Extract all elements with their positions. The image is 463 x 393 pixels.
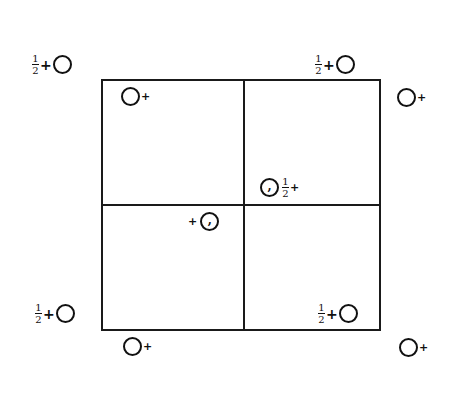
plus-sign: + xyxy=(417,92,426,103)
fraction-numerator: 1 xyxy=(32,54,38,63)
fraction-half: 12 xyxy=(318,303,325,324)
plus-sign: + xyxy=(290,182,299,193)
position-symbol-br-outer: + xyxy=(399,338,428,357)
plus-sign: + xyxy=(323,58,335,72)
circle-icon xyxy=(336,55,355,74)
fraction-numerator: 1 xyxy=(318,303,324,312)
circle-icon xyxy=(56,304,75,323)
fraction-numerator: 1 xyxy=(282,177,288,186)
circle-comma-icon: , xyxy=(260,178,279,197)
plus-sign: + xyxy=(141,91,150,102)
fraction-numerator: 1 xyxy=(315,54,321,63)
fraction-denominator: 2 xyxy=(32,66,38,75)
fraction-denominator: 2 xyxy=(318,315,324,324)
plus-sign: + xyxy=(326,307,338,321)
plus-sign: + xyxy=(43,307,55,321)
comma-mark: , xyxy=(208,214,212,226)
plus-sign: + xyxy=(40,58,52,72)
position-symbol-br-inner: 12 + xyxy=(318,303,358,324)
fraction-denominator: 2 xyxy=(282,189,288,198)
position-symbol-center-upper: , 12 + xyxy=(260,177,299,198)
position-symbol-tr-top: 12 + xyxy=(315,54,355,75)
plus-sign: + xyxy=(419,342,428,353)
cell-bottom-edge xyxy=(103,329,381,331)
fraction-half: 12 xyxy=(282,177,289,198)
cell-top-edge xyxy=(101,79,381,81)
position-symbol-tl-inner: + xyxy=(121,87,150,106)
circle-icon xyxy=(123,337,142,356)
position-symbol-center-lower: + , xyxy=(188,212,219,231)
fraction-half: 12 xyxy=(315,54,322,75)
position-symbol-tr-outer: + xyxy=(397,88,426,107)
circle-icon xyxy=(397,88,416,107)
circle-icon xyxy=(399,338,418,357)
circle-comma-icon: , xyxy=(200,212,219,231)
position-symbol-tl-outer: 12 + xyxy=(32,54,72,75)
plus-sign: + xyxy=(143,341,152,352)
horizontal-divider xyxy=(101,204,381,206)
fraction-half: 12 xyxy=(32,54,39,75)
circle-icon xyxy=(339,304,358,323)
fraction-denominator: 2 xyxy=(35,315,41,324)
circle-icon xyxy=(121,87,140,106)
comma-mark: , xyxy=(267,180,271,192)
position-symbol-bl-below: + xyxy=(123,337,152,356)
position-symbol-bl-outer: 12 + xyxy=(35,303,75,324)
circle-icon xyxy=(53,55,72,74)
plus-sign: + xyxy=(188,216,197,227)
fraction-denominator: 2 xyxy=(315,66,321,75)
fraction-numerator: 1 xyxy=(35,303,41,312)
fraction-half: 12 xyxy=(35,303,42,324)
